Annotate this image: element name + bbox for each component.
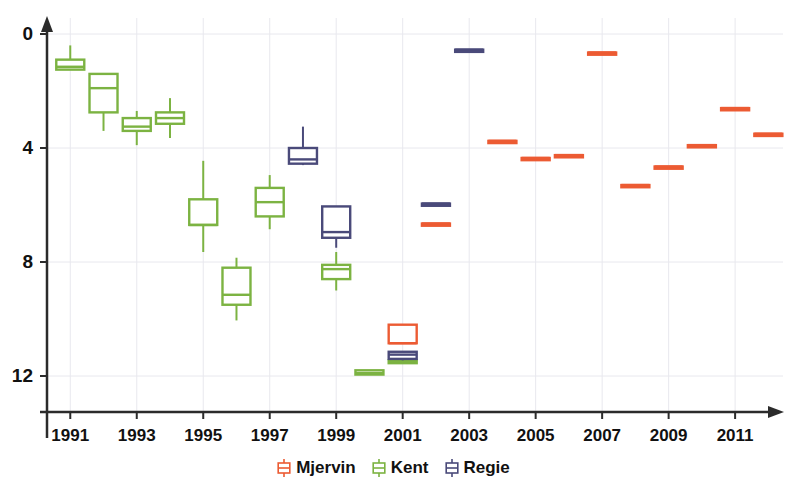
x-axis-tick-label: 2005	[517, 426, 555, 446]
y-axis-tick-label: 12	[0, 365, 33, 387]
x-axis-tick-label: 1993	[118, 426, 156, 446]
y-axis-tick-label: 0	[0, 23, 33, 45]
box-plot-kent-1992	[90, 74, 118, 131]
y-axis-arrowhead	[41, 16, 53, 32]
x-axis-tick-label: 1997	[251, 426, 289, 446]
box	[322, 265, 350, 279]
legend-item-regie[interactable]: Regie	[445, 458, 510, 478]
box-plot-mjervin-2005	[522, 158, 550, 160]
box-plot-mjervin-2007	[588, 53, 616, 55]
legend-label: Regie	[464, 458, 510, 478]
boxplot-glyph-icon	[445, 458, 459, 478]
box-plot-regie-2001	[389, 352, 417, 361]
box-plot-mjervin-2002	[422, 224, 450, 226]
box	[90, 74, 118, 112]
box	[56, 60, 84, 70]
box-plot-mjervin-2004	[488, 141, 516, 143]
box-plot-kent-2001	[389, 360, 417, 363]
box-plot-kent-1997	[256, 175, 284, 229]
box-plot-kent-1996	[222, 258, 250, 321]
chart-legend: MjervinKentRegie	[0, 458, 787, 478]
box-plot-mjervin-2012	[754, 134, 782, 136]
x-axis-tick-label: 2009	[650, 426, 688, 446]
legend-label: Mjervin	[296, 458, 356, 478]
x-axis-tick-label: 2003	[450, 426, 488, 446]
box-plot-regie-1998	[289, 127, 317, 165]
box-plot-kent-1994	[156, 98, 184, 138]
y-axis-tick-label: 8	[0, 251, 33, 273]
box	[189, 199, 217, 225]
box-plot-series-layer	[56, 45, 782, 374]
box-plot-kent-1995	[189, 161, 217, 252]
box-plot-mjervin-2008	[621, 185, 649, 187]
boxplot-glyph-icon	[372, 458, 386, 478]
box-plot-regie-1999	[322, 206, 350, 247]
box-plot-kent-1993	[123, 111, 151, 145]
x-axis-tick-label: 1999	[317, 426, 355, 446]
x-axis-tick-label: 2007	[583, 426, 621, 446]
box-plot-mjervin-2006	[555, 155, 583, 157]
legend-item-mjervin[interactable]: Mjervin	[277, 458, 356, 478]
box	[123, 118, 151, 131]
x-axis-tick-label: 2011	[717, 426, 754, 446]
box-plot-kent-1999	[322, 252, 350, 290]
y-axis-tick-label: 4	[0, 137, 33, 159]
box-plot-mjervin-2001	[389, 325, 417, 344]
box-plot-mjervin-2011	[721, 108, 749, 110]
legend-label: Kent	[391, 458, 429, 478]
box-plot-regie-2002	[422, 204, 450, 206]
box	[389, 325, 417, 344]
box-plot-regie-2003	[455, 50, 483, 52]
x-axis-tick-label: 1995	[184, 426, 222, 446]
plot-area	[0, 0, 787, 484]
legend-item-kent[interactable]: Kent	[372, 458, 429, 478]
box-plot-mjervin-2009	[655, 167, 683, 169]
x-axis-tick-label: 2001	[384, 426, 422, 446]
x-axis-arrowhead	[768, 406, 784, 418]
box-plot-kent-1991	[56, 45, 84, 69]
box	[222, 268, 250, 305]
boxplot-chart: 12840 1991199319951997199920012003200520…	[0, 0, 787, 484]
box-plot-mjervin-2010	[688, 145, 716, 147]
x-axis-tick-label: 1991	[51, 426, 89, 446]
box	[289, 148, 317, 164]
box-plot-kent-2000	[355, 370, 383, 374]
axis-lines	[40, 16, 784, 438]
boxplot-glyph-icon	[277, 458, 291, 478]
